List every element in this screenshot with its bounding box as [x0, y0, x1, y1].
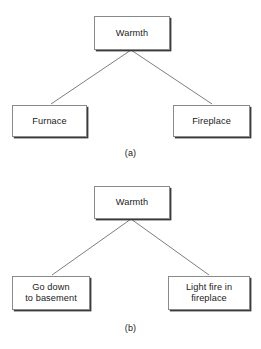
node-label: Go down to basement [25, 282, 77, 304]
node-warmth-b: Warmth [94, 186, 170, 219]
figure-canvas: Warmth Furnace Fireplace (a) Warmth Go d… [0, 0, 261, 349]
caption-a: (a) [0, 148, 261, 158]
node-go-down-to-basement: Go down to basement [12, 276, 90, 310]
edge-warmth-light-fire-in-fireplace [131, 219, 209, 275]
node-label: Furnace [32, 116, 66, 127]
node-label: Fireplace [192, 116, 231, 127]
node-fireplace: Fireplace [173, 105, 250, 137]
edge-warmth-furnace [51, 50, 131, 104]
node-furnace: Furnace [12, 105, 87, 137]
caption-b: (b) [0, 323, 261, 333]
node-light-fire-in-fireplace: Light fire in fireplace [168, 276, 250, 310]
edge-warmth-go-down-to-basement [52, 219, 131, 275]
node-warmth-a: Warmth [94, 16, 170, 50]
node-label: Light fire in fireplace [186, 282, 232, 304]
node-label: Warmth [116, 197, 148, 208]
edge-warmth-fireplace [131, 50, 212, 104]
node-label: Warmth [116, 28, 148, 39]
